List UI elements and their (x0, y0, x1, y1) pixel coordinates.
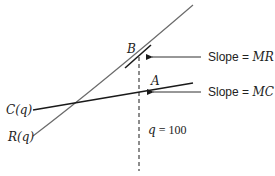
slope-mc-label: Slope = MC (208, 85, 274, 99)
marginal-revenue-cost-diagram: B A Slope = MR Slope = MC C(q) R(q) q = … (0, 0, 275, 176)
point-a-label: A (150, 74, 160, 88)
slope-mr-var: MR (251, 50, 273, 64)
slope-mr-prefix: Slope = (208, 50, 252, 64)
cost-line (33, 83, 193, 110)
point-b-label: B (126, 42, 136, 56)
q-value: 100 (168, 123, 186, 137)
revenue-curve-label: R(q) (7, 130, 34, 144)
slope-mr-label: Slope = MR (208, 50, 274, 64)
revenue-curve (33, 5, 193, 136)
q-eq: = (156, 123, 169, 137)
slope-mc-var: MC (251, 85, 273, 99)
slope-mc-prefix: Slope = (208, 85, 252, 99)
q-100-label: q = 100 (148, 123, 186, 137)
cost-curve-label: C(q) (6, 103, 33, 117)
